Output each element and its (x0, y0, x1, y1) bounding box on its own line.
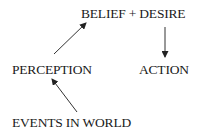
node-events-in-world: EVENTS IN WORLD (12, 116, 131, 130)
arrow-events-to-perception (52, 79, 77, 112)
node-belief-desire: BELIEF + DESIRE (81, 7, 185, 21)
node-action: ACTION (139, 63, 189, 77)
node-perception: PERCEPTION (12, 63, 92, 77)
arrow-perception-to-belief (54, 23, 86, 54)
